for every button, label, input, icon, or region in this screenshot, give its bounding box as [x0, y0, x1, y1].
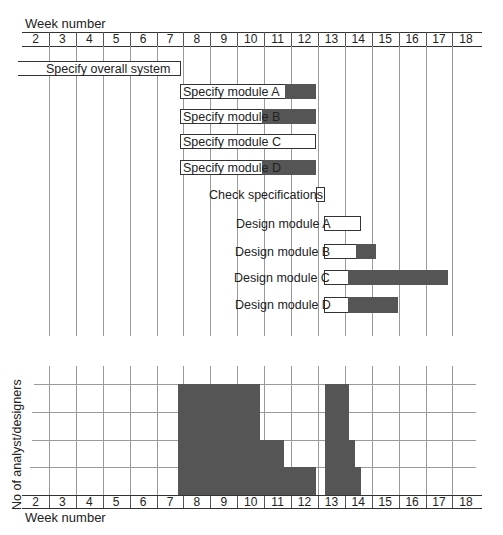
task-label: Specify module D — [183, 161, 281, 175]
task-label: Specify overall system — [46, 62, 170, 76]
histogram-gridline — [103, 366, 104, 495]
task-label: Design module C — [234, 271, 330, 285]
gantt-gridline — [345, 46, 346, 336]
week-tick: 9 — [210, 495, 237, 509]
tick-separator — [399, 32, 400, 46]
week-tick: 10 — [237, 495, 264, 509]
y-axis-title: No of analyst/designers — [10, 380, 24, 510]
week-tick: 16 — [399, 32, 426, 46]
hist-bar-week-12 — [283, 467, 316, 495]
task-label: Check specifications — [209, 188, 323, 202]
gantt-gridline — [157, 46, 158, 336]
histogram-gridline — [157, 366, 158, 495]
week-tick: 11 — [264, 495, 291, 509]
tick-separator — [210, 32, 211, 46]
week-tick: 2 — [22, 495, 49, 509]
week-tick: 12 — [291, 32, 318, 46]
week-tick: 8 — [183, 32, 210, 46]
histogram-gridline — [372, 366, 373, 495]
week-tick: 5 — [103, 495, 130, 509]
tick-separator — [426, 32, 427, 46]
week-tick: 15 — [372, 495, 399, 509]
histogram-gridline — [452, 366, 453, 495]
hist-bar-weeks-8-10 — [178, 384, 260, 495]
week-tick: 17 — [426, 495, 453, 509]
float-bar-specify-module-a — [285, 84, 316, 99]
hist-bar-week-13 — [325, 384, 349, 495]
bottom-axis-title: Week number — [25, 510, 106, 525]
week-tick: 6 — [130, 495, 157, 509]
week-tick: 3 — [49, 32, 76, 46]
tick-separator — [103, 32, 104, 46]
week-tick: 8 — [183, 495, 210, 509]
week-tick: 2 — [22, 32, 49, 46]
tick-separator — [345, 32, 346, 46]
week-tick: 14 — [345, 32, 372, 46]
tick-separator — [49, 32, 50, 46]
task-label: Design module A — [236, 217, 331, 231]
task-label: Specify module A — [183, 85, 280, 99]
tick-separator — [291, 32, 292, 46]
week-tick: 3 — [49, 495, 76, 509]
week-tick: 13 — [318, 495, 345, 509]
week-tick: 11 — [264, 32, 291, 46]
gantt-gridline — [452, 46, 453, 336]
gantt-gridline — [426, 46, 427, 336]
float-bar-design-module-c — [348, 270, 448, 285]
gantt-gridline — [372, 46, 373, 336]
tick-separator — [452, 32, 453, 46]
gantt-gridline — [130, 46, 131, 336]
task-label: Design module B — [235, 245, 330, 259]
gantt-gridline — [49, 46, 50, 336]
hist-bar-week-11 — [259, 440, 284, 495]
histogram-gridline — [426, 366, 427, 495]
gantt-gridline — [76, 46, 77, 336]
week-tick: 14 — [345, 495, 372, 509]
tick-separator — [237, 32, 238, 46]
tick-separator — [130, 32, 131, 46]
top-header-underline — [22, 46, 482, 47]
float-bar-design-module-b — [356, 244, 376, 259]
tick-separator — [372, 32, 373, 46]
week-tick: 4 — [76, 495, 103, 509]
week-tick: 12 — [291, 495, 318, 509]
week-tick: 15 — [372, 32, 399, 46]
week-tick: 16 — [399, 495, 426, 509]
week-tick: 4 — [76, 32, 103, 46]
task-label: Specify module C — [183, 135, 281, 149]
tick-separator — [318, 32, 319, 46]
histogram-gridline — [399, 366, 400, 495]
tick-separator — [76, 32, 77, 46]
tick-separator — [157, 32, 158, 46]
week-tick: 18 — [452, 495, 479, 509]
week-tick: 9 — [210, 32, 237, 46]
week-tick: 17 — [426, 32, 453, 46]
tick-separator — [264, 32, 265, 46]
week-tick: 6 — [130, 32, 157, 46]
histogram-gridline — [49, 366, 50, 495]
float-bar-design-module-d — [348, 297, 398, 313]
histogram-gridline — [130, 366, 131, 495]
tick-separator — [183, 32, 184, 46]
week-tick: 7 — [157, 32, 184, 46]
gantt-gridline — [399, 46, 400, 336]
hist-bar-week-14b — [354, 467, 361, 495]
week-tick: 13 — [318, 32, 345, 46]
histogram-gridline — [76, 366, 77, 495]
histogram-gridline — [318, 366, 319, 495]
gantt-gridline — [103, 46, 104, 336]
task-label: Specify module B — [183, 110, 280, 124]
week-tick: 18 — [452, 32, 479, 46]
top-axis-title: Week number — [25, 16, 106, 31]
week-tick: 10 — [237, 32, 264, 46]
task-label: Design module D — [235, 298, 331, 312]
week-tick: 7 — [157, 495, 184, 509]
week-tick: 5 — [103, 32, 130, 46]
